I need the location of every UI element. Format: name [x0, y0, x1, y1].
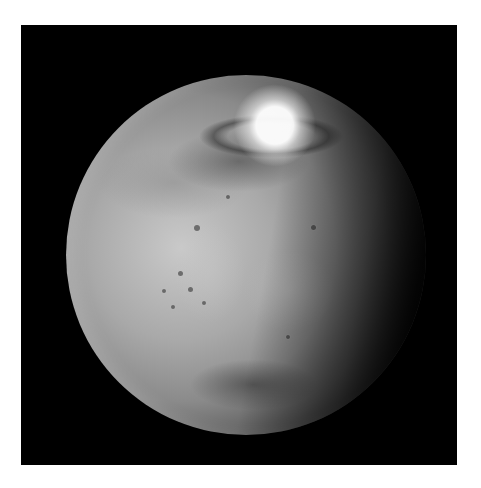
- terminator-shadow: [66, 75, 426, 435]
- space-background: [21, 25, 457, 465]
